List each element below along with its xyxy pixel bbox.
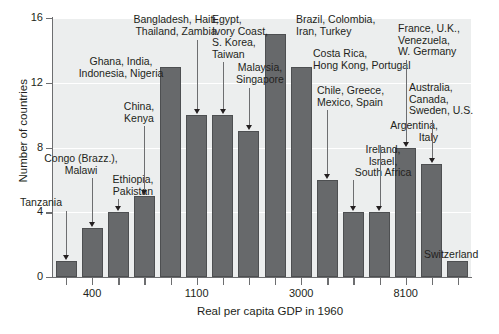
- annotation-arrowhead-icon: [115, 206, 121, 211]
- annotation-leader-line: [92, 178, 93, 222]
- annotation-leader-line: [249, 88, 250, 125]
- annotation-arrowhead-icon: [324, 174, 330, 179]
- annotation-arrowhead-icon: [376, 206, 382, 211]
- annotation-arrowhead-icon: [63, 255, 69, 260]
- bar-chart: 0481216 Number of countries 400110030008…: [0, 0, 499, 334]
- annotation-leader-line: [197, 40, 198, 109]
- bar: [108, 212, 129, 277]
- bar: [238, 131, 259, 277]
- bar: [291, 67, 312, 277]
- bar: [134, 196, 155, 277]
- x-tick: [432, 278, 433, 285]
- bar-annotation-label: Brazil, Colombia, Iran, Turkey: [296, 14, 400, 37]
- x-tick: [171, 278, 172, 285]
- annotation-arrowhead-icon: [350, 206, 356, 211]
- x-tick: [275, 278, 276, 285]
- x-tick: [118, 278, 119, 285]
- bar-annotation-label: Chile, Greece, Mexico, Spain: [317, 85, 409, 108]
- x-tick-label: 1100: [167, 288, 227, 299]
- bar: [160, 67, 181, 277]
- bar-annotation-label: Egypt, Ivory Coast, S. Korea, Taiwan: [212, 14, 286, 60]
- bar-annotation-label: France, U.K., Venezuela, W. Germany: [398, 23, 484, 58]
- y-tick: [46, 83, 52, 84]
- bar-annotation-label: Ireland, Israel, South Africa: [339, 144, 427, 179]
- x-tick-label: 8100: [376, 288, 436, 299]
- y-tick: [46, 212, 52, 213]
- x-tick: [327, 278, 328, 285]
- x-tick-label: 400: [62, 288, 122, 299]
- bar-annotation-label: Ethiopia, Pakistan: [98, 174, 168, 197]
- bar: [212, 115, 233, 277]
- bar-annotation-label: Tanzania: [20, 197, 90, 209]
- bar-annotation-label: Australia, Canada, Sweden, U.S.: [409, 82, 495, 117]
- x-tick: [197, 278, 198, 285]
- x-tick: [223, 278, 224, 285]
- bar-annotation-label: Malaysia, Singapore: [222, 62, 298, 85]
- x-tick: [144, 278, 145, 285]
- x-tick-label: 3000: [271, 288, 331, 299]
- annotation-leader-line: [380, 145, 381, 206]
- annotation-arrowhead-icon: [246, 125, 252, 130]
- y-axis-line: [52, 17, 53, 278]
- annotation-arrowhead-icon: [141, 190, 147, 195]
- x-tick: [249, 278, 250, 285]
- x-tick: [92, 278, 93, 285]
- bar-annotation-label: Ghana, India, Indonesia, Nigeria: [62, 56, 180, 79]
- annotation-leader-line: [327, 110, 328, 174]
- bar-annotation-label: China, Kenya: [108, 101, 170, 124]
- annotation-arrowhead-icon: [429, 158, 435, 163]
- bar: [82, 228, 103, 277]
- annotation-leader-line: [144, 126, 145, 190]
- annotation-leader-line: [66, 211, 67, 255]
- bar-annotation-label: Switzerland: [424, 249, 498, 261]
- bar: [56, 261, 77, 277]
- bar: [369, 212, 390, 277]
- x-tick: [406, 278, 407, 285]
- x-tick: [353, 278, 354, 285]
- x-tick: [380, 278, 381, 285]
- bar: [186, 115, 207, 277]
- y-tick: [46, 18, 52, 19]
- x-axis-line: [52, 277, 472, 278]
- bar: [317, 180, 338, 277]
- y-tick-label: 16: [3, 12, 43, 23]
- annotation-arrowhead-icon: [194, 109, 200, 114]
- bar: [447, 261, 468, 277]
- bar-annotation-label: Congo (Brazz.), Malawi: [38, 153, 124, 176]
- annotation-leader-line: [432, 120, 433, 158]
- bar: [343, 212, 364, 277]
- x-tick: [66, 278, 67, 285]
- x-axis-title: Real per capita GDP in 1960: [140, 306, 400, 318]
- annotation-arrowhead-icon: [89, 222, 95, 227]
- x-tick: [458, 278, 459, 285]
- annotation-arrowhead-icon: [403, 142, 409, 147]
- y-tick: [46, 148, 52, 149]
- annotation-leader-line: [406, 60, 407, 142]
- annotation-leader-line: [118, 199, 119, 206]
- annotation-leader-line: [353, 180, 354, 206]
- x-tick: [301, 278, 302, 285]
- annotation-arrowhead-icon: [220, 109, 226, 114]
- bar-annotation-label: Argentina, Italy: [358, 120, 438, 143]
- y-tick-label: 0: [3, 271, 43, 282]
